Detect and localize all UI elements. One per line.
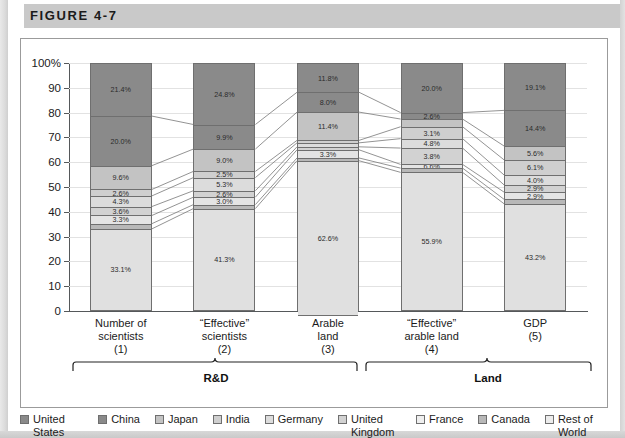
y-axis-tick bbox=[64, 187, 69, 188]
x-axis-label-line: arable land bbox=[377, 330, 487, 343]
legend-label: United States bbox=[33, 413, 83, 438]
bar-segment[interactable]: 14.4% bbox=[505, 110, 565, 146]
x-axis-category-label: Arableland(3) bbox=[273, 317, 383, 356]
bar-segment-label: 21.4% bbox=[111, 86, 131, 93]
bar-segment[interactable]: 4.3% bbox=[91, 196, 151, 207]
bar-segment[interactable]: 8.0% bbox=[298, 92, 358, 112]
x-axis-category-label: “Effective”arable land(4) bbox=[377, 317, 487, 356]
connector-line bbox=[255, 150, 297, 197]
x-axis-label-line: GDP bbox=[480, 317, 590, 330]
bar-segment[interactable]: 2.9% bbox=[505, 185, 565, 192]
bar-segment-label: 6.1% bbox=[527, 164, 543, 171]
figure-title: FIGURE 4-7 bbox=[30, 8, 118, 23]
bar-segment[interactable]: 3.6% bbox=[91, 207, 151, 216]
legend-item[interactable]: Canada bbox=[478, 413, 530, 438]
y-axis-tick bbox=[64, 261, 69, 262]
bar-segment[interactable]: 5.3% bbox=[194, 178, 254, 191]
x-axis-label-line: (3) bbox=[273, 343, 383, 356]
y-axis-tick-label: 70 bbox=[48, 131, 61, 143]
legend-item[interactable]: Japan bbox=[155, 413, 198, 438]
bar-segment[interactable]: 55.9% bbox=[402, 172, 462, 311]
bar-segment[interactable]: 9.0% bbox=[194, 149, 254, 171]
y-axis-tick-label: 10 bbox=[48, 280, 61, 292]
plot-area: 100%908070605040302010021.4%20.0%9.6%2.6… bbox=[69, 63, 587, 311]
legend-swatch bbox=[545, 415, 554, 424]
y-axis-tick bbox=[64, 162, 69, 163]
bar-segment[interactable]: 4.0% bbox=[505, 175, 565, 185]
stacked-bar[interactable]: 20.0%2.6%3.1%4.8%3.8%6.6%55.9% bbox=[401, 63, 463, 311]
y-axis-tick-label: 30 bbox=[48, 231, 61, 243]
legend-item[interactable]: China bbox=[98, 413, 140, 438]
connector-line bbox=[152, 205, 194, 224]
bar-segment-label: 5.3% bbox=[216, 181, 232, 188]
legend-item[interactable]: United States bbox=[20, 413, 83, 438]
legend-swatch bbox=[478, 415, 487, 424]
y-axis-tick bbox=[64, 311, 69, 312]
bar-segment[interactable]: 3.3% bbox=[298, 150, 358, 158]
legend-item[interactable]: Germany bbox=[265, 413, 323, 438]
connector-line bbox=[463, 127, 505, 160]
header-white-block bbox=[8, 4, 24, 28]
legend-item[interactable]: France bbox=[416, 413, 463, 438]
bar-segment[interactable]: 6.1% bbox=[505, 160, 565, 175]
bracket-label-land: Land bbox=[453, 372, 523, 384]
legend-item[interactable]: Rest of World bbox=[545, 413, 608, 438]
bar-segment[interactable]: 41.3% bbox=[194, 209, 254, 311]
bar-segment-label: 62.6% bbox=[318, 235, 338, 242]
bar-segment-label: 3.3% bbox=[113, 216, 129, 223]
bar-segment-label: 14.4% bbox=[525, 125, 545, 132]
connector-line bbox=[463, 172, 505, 203]
bar-segment[interactable]: 24.8% bbox=[194, 63, 254, 125]
bar-segment-label: 41.3% bbox=[214, 256, 234, 263]
legend-swatch bbox=[155, 415, 164, 424]
legend-swatch bbox=[20, 415, 29, 424]
legend-label: France bbox=[429, 413, 463, 426]
bar-segment-label: 11.4% bbox=[318, 123, 338, 130]
bar-segment[interactable]: 20.0% bbox=[91, 116, 151, 166]
y-axis-tick-label: 100% bbox=[32, 57, 61, 69]
bar-segment[interactable]: 3.3% bbox=[91, 215, 151, 223]
bar-segment[interactable]: 62.6% bbox=[298, 161, 358, 316]
bar-segment[interactable] bbox=[402, 119, 462, 127]
bar-segment-label: 11.8% bbox=[318, 75, 338, 82]
stacked-bar[interactable]: 24.8%9.9%9.0%2.5%5.3%2.6%3.0%41.3% bbox=[193, 63, 255, 311]
x-axis-label-line: Arable bbox=[273, 317, 383, 330]
legend-swatch bbox=[213, 415, 222, 424]
connector-line bbox=[255, 147, 297, 191]
bar-segment[interactable]: 20.0% bbox=[402, 63, 462, 113]
y-axis-tick bbox=[64, 212, 69, 213]
legend-item[interactable]: India bbox=[213, 413, 250, 438]
bar-segment[interactable]: 4.8% bbox=[402, 139, 462, 148]
bar-segment[interactable]: 2.9% bbox=[505, 192, 565, 199]
stacked-bar[interactable]: 21.4%20.0%9.6%2.6%4.3%3.6%3.3%33.1% bbox=[90, 63, 152, 311]
x-axis-label-line: (5) bbox=[480, 330, 590, 343]
bar-segment[interactable]: 21.4% bbox=[91, 63, 151, 116]
stacked-bar[interactable]: 19.1%14.4%5.6%6.1%4.0%2.9%2.9%43.2% bbox=[504, 63, 566, 311]
bar-segment[interactable]: 33.1% bbox=[91, 229, 151, 311]
bar-segment-label: 2.9% bbox=[527, 193, 543, 200]
bar-segment[interactable]: 11.8% bbox=[298, 63, 358, 92]
stacked-bar[interactable]: 11.8%8.0%11.4%3.3%62.6% bbox=[297, 63, 359, 311]
connector-line bbox=[359, 139, 401, 143]
bar-segment-label: 3.3% bbox=[320, 151, 336, 158]
bar-segment[interactable]: 19.1% bbox=[505, 63, 565, 110]
connector-line bbox=[255, 140, 297, 171]
bar-segment[interactable]: 3.1% bbox=[402, 127, 462, 139]
bar-segment[interactable]: 43.2% bbox=[505, 204, 565, 311]
x-axis-label-line: (4) bbox=[377, 343, 487, 356]
y-axis-tick-label: 50 bbox=[48, 181, 61, 193]
bar-segment[interactable]: 11.4% bbox=[298, 112, 358, 140]
connector-line bbox=[359, 92, 401, 112]
bar-segment[interactable]: 3.8% bbox=[402, 148, 462, 164]
bar-segment[interactable]: 9.6% bbox=[91, 166, 151, 190]
bar-segment-label: 55.9% bbox=[421, 238, 441, 245]
legend-label: Germany bbox=[278, 413, 323, 426]
bar-segment-label: 9.6% bbox=[113, 174, 129, 181]
y-axis-tick bbox=[64, 88, 69, 89]
bar-segment[interactable]: 3.0% bbox=[194, 197, 254, 204]
bar-segment[interactable]: 9.9% bbox=[194, 125, 254, 150]
connector-line bbox=[152, 191, 194, 207]
bar-segment-label: 20.0% bbox=[111, 138, 131, 145]
legend-item[interactable]: United Kingdom bbox=[338, 413, 401, 438]
bar-segment[interactable]: 5.6% bbox=[505, 146, 565, 160]
